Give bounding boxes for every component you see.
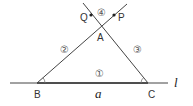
angle-c-arc [141,78,144,83]
region-4-label: ④ [97,7,106,18]
label-c: C [148,89,155,100]
label-q: Q [80,12,88,23]
side-a-label: a [95,86,102,101]
region-1-label: ① [95,68,104,79]
region-2-label: ② [60,44,69,55]
label-p: P [118,12,125,23]
point-q-dot [89,13,92,16]
line-l-label: l [174,75,178,90]
diagram-svg: Q P A B C ④ ② ③ ① a l [0,0,193,106]
point-p-dot [112,13,115,16]
label-a: A [97,32,104,43]
region-3-label: ③ [133,44,142,55]
label-b: B [34,89,41,100]
geometry-diagram: Q P A B C ④ ② ③ ① a l [0,0,193,106]
angle-b-arc [43,78,45,83]
